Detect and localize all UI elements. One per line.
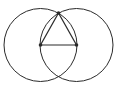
point-a: [39, 43, 43, 47]
point-c: [57, 11, 61, 15]
geometry-diagram: [0, 0, 118, 88]
point-b: [75, 43, 79, 47]
triangle-group: [41, 13, 77, 45]
points-group: [39, 11, 79, 47]
